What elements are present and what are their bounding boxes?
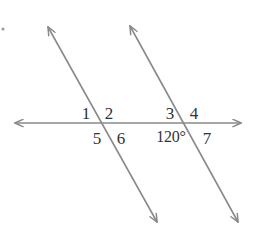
- angle-measure-120: 120°: [156, 129, 186, 145]
- parallel-line-left: [48, 27, 157, 222]
- angle-label-1: 1: [82, 105, 91, 122]
- angle-label-6: 6: [117, 130, 126, 147]
- parallel-line-right: [130, 26, 238, 222]
- angle-label-5: 5: [93, 130, 102, 147]
- corner-dot: [2, 28, 5, 31]
- angle-label-7: 7: [203, 130, 212, 147]
- geometry-figure: 123456120°7: [0, 0, 254, 243]
- angle-label-3: 3: [166, 105, 175, 122]
- angle-label-4: 4: [190, 105, 199, 122]
- geometry-canvas: [0, 0, 254, 243]
- angle-label-2: 2: [105, 105, 114, 122]
